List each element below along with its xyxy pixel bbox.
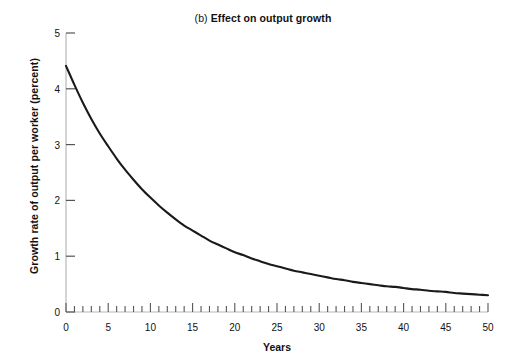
x-tick-label: 25: [271, 322, 282, 333]
x-tick-label: 45: [440, 322, 451, 333]
y-tick-label: 0: [54, 307, 60, 318]
y-tick-label: 4: [54, 83, 60, 94]
x-tick-label: 35: [356, 322, 367, 333]
x-tick-label: 10: [145, 322, 156, 333]
growth-rate-curve: [66, 66, 488, 295]
x-tick-label: 0: [63, 322, 69, 333]
y-tick-label: 5: [54, 28, 60, 39]
x-tick-label: 5: [105, 322, 111, 333]
x-tick-label: 30: [314, 322, 325, 333]
x-tick-label: 20: [229, 322, 240, 333]
y-tick-label: 2: [54, 195, 60, 206]
y-tick-label: 1: [54, 251, 60, 262]
x-tick-label: 15: [187, 322, 198, 333]
plot-area: [0, 0, 526, 364]
chart-figure: (b) Effect on output growth Growth rate …: [0, 0, 526, 364]
y-tick-label: 3: [54, 139, 60, 150]
x-tick-label: 40: [398, 322, 409, 333]
x-tick-label: 50: [482, 322, 493, 333]
